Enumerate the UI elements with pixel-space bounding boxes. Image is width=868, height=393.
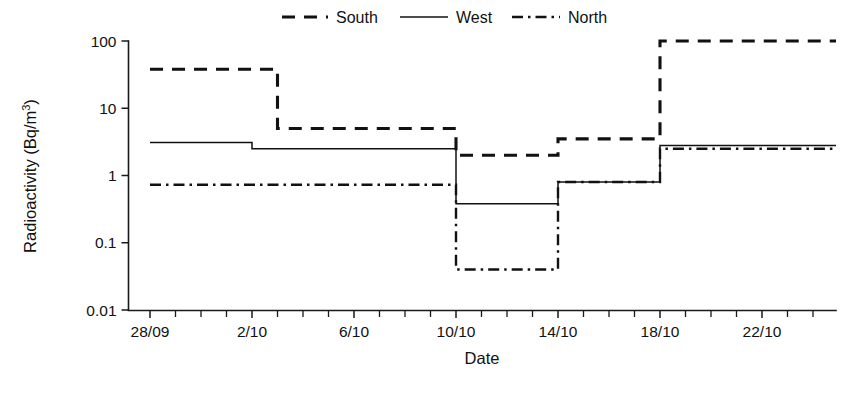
y-tick-label: 0.1	[95, 234, 117, 251]
x-axis-title: Date	[465, 349, 500, 367]
x-tick-label: 14/10	[539, 323, 578, 340]
x-tick-label: 6/10	[339, 323, 370, 340]
x-tick-label: 28/09	[131, 323, 170, 340]
y-axis-title-text: Radioactivity (Bq/m3)	[20, 99, 39, 253]
x-tick-label: 18/10	[641, 323, 680, 340]
legend-label-west: West	[456, 9, 493, 26]
legend-label-north: North	[568, 9, 607, 26]
y-tick-label: 10	[99, 100, 117, 117]
y-axis-title-close: )	[21, 99, 39, 105]
y-tick-label: 1	[108, 167, 117, 184]
series-path-north	[150, 149, 836, 270]
y-tick-label: 100	[91, 33, 117, 50]
y-axis-tick-labels: 1001010.10.01	[86, 33, 117, 319]
y-axis-title: Radioactivity (Bq/m3)	[20, 99, 39, 253]
x-tick-label: 22/10	[743, 323, 782, 340]
y-axis-title-base: Radioactivity (Bq/m	[21, 111, 39, 253]
chart-legend: South West North	[282, 9, 607, 26]
radioactivity-step-chart: South West North 1001010.10.01 28/092/10…	[0, 0, 868, 393]
y-tick-label: 0.01	[86, 302, 116, 319]
data-series-group	[150, 41, 836, 270]
x-axis-tick-labels: 28/092/106/1010/1014/1018/1022/10	[131, 323, 782, 340]
x-tick-label: 2/10	[237, 323, 268, 340]
legend-label-south: South	[336, 9, 378, 26]
series-path-south	[150, 41, 836, 155]
chart-figure: South West North 1001010.10.01 28/092/10…	[0, 0, 868, 393]
x-tick-label: 10/10	[437, 323, 476, 340]
series-path-west	[150, 142, 836, 203]
y-axis-ticks	[122, 41, 129, 310]
